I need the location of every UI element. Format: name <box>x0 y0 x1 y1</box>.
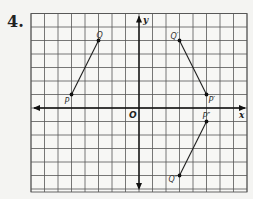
point-label-p1: P′ <box>209 96 216 105</box>
point-label-p: P <box>65 97 70 106</box>
y-axis-label: y <box>142 15 149 25</box>
point-label-q1: Q′ <box>171 32 179 41</box>
origin-label: O <box>129 110 137 120</box>
point-p <box>70 93 74 97</box>
point-label-q2: Q″ <box>169 175 178 184</box>
coordinate-plane: QPQ′P′P″Q″ x y O <box>0 0 253 199</box>
x-axis-label: x <box>238 110 245 120</box>
point-label-p2: P″ <box>203 112 211 121</box>
point-q2 <box>178 174 182 178</box>
point-label-q: Q <box>97 31 103 40</box>
